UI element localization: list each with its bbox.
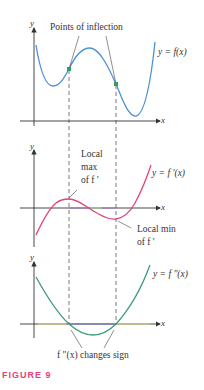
curve-f [36, 42, 155, 116]
graph-top [20, 28, 160, 126]
x-axis-label-middle: x [161, 202, 165, 212]
inflection-point-1 [67, 67, 71, 71]
annotation-local-min-2: of f ′ [137, 237, 155, 248]
annotation-local-max-1: Local [81, 149, 103, 160]
curve-label-f: y = f(x) [158, 47, 187, 58]
figure-caption: FIGURE 9 [2, 370, 52, 380]
y-axis-label-bottom: y [30, 252, 34, 262]
annotation-local-max-3: of f ′ [81, 175, 99, 186]
annotation-local-max-2: max [81, 162, 97, 173]
x-axis-label-top: x [161, 115, 165, 125]
y-axis-label-top: y [30, 18, 34, 28]
x-axis-label-bottom: x [161, 318, 165, 328]
annotation-local-min-1: Local min [137, 224, 176, 235]
y-axis-label-middle: y [30, 141, 34, 151]
curve-label-f-prime: y = f ′(x) [152, 168, 185, 179]
annotation-changes-sign: f ″(x) changes sign [57, 350, 129, 361]
curve-label-f-double-prime: y = f ″(x) [153, 269, 188, 280]
annotation-points-of-inflection: Points of inflection [50, 22, 123, 33]
inflection-point-2 [114, 82, 118, 86]
graph-bottom [20, 262, 160, 348]
figure-canvas [0, 0, 204, 390]
